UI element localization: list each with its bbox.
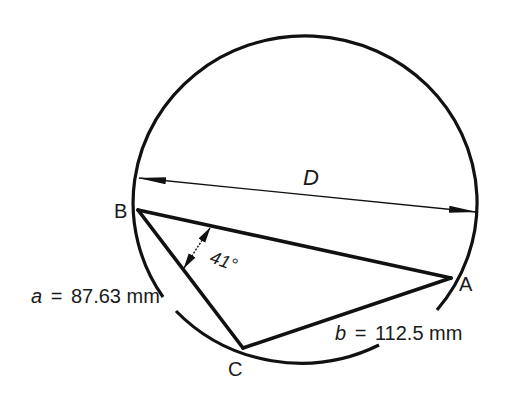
side-b-value: 112.5 mm [375, 322, 462, 344]
vertex-label-c: C [228, 359, 242, 379]
side-a-dimension: a = 87.63 mm [31, 286, 160, 306]
side-a-variable: a [31, 285, 42, 307]
diameter-label: D [303, 167, 319, 189]
vertex-label-a: A [459, 274, 472, 294]
angle-dimension-arrow [184, 228, 210, 268]
vertex-label-b: B [114, 201, 127, 221]
side-b-equals: = [355, 322, 367, 344]
side-a-equals: = [51, 285, 63, 307]
side-b-variable: b [335, 322, 346, 344]
side-a-value: 87.63 mm [71, 285, 160, 307]
side-b-dimension: b = 112.5 mm [335, 323, 462, 343]
circumscribed-circle [133, 36, 477, 363]
